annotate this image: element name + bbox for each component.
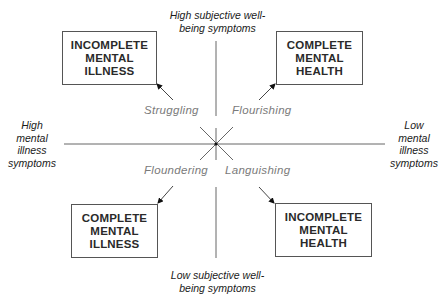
axis-label-left-line1: High: [21, 119, 43, 131]
box-incomplete-mental-illness: INCOMPLETE MENTAL ILLNESS: [62, 31, 157, 85]
axis-label-right-line4: symptoms: [390, 157, 438, 169]
box-text-line: MENTAL: [285, 224, 362, 237]
box-incomplete-mental-health: INCOMPLETE MENTAL HEALTH: [275, 203, 372, 257]
box-text-line: COMPLETE: [82, 212, 148, 225]
axis-label-right-line2: mental: [398, 132, 430, 144]
axis-label-right-line1: Low: [404, 119, 423, 131]
box-text-line: INCOMPLETE: [285, 211, 362, 224]
axis-label-top: High subjective well- being symptoms: [150, 9, 285, 34]
axis-label-bottom-line1: Low subjective well-: [171, 269, 264, 281]
axis-label-right-line3: illness: [399, 144, 428, 156]
axis-label-top-line2: being symptoms: [179, 22, 255, 34]
origin-dot: [214, 142, 217, 145]
box-text-line: HEALTH: [285, 237, 362, 250]
axis-label-left-line4: symptoms: [8, 157, 56, 169]
box-text-line: HEALTH: [287, 65, 353, 78]
box-complete-mental-illness: COMPLETE MENTAL ILLNESS: [71, 204, 158, 258]
axis-label-left-line2: mental: [16, 132, 48, 144]
box-text-line: INCOMPLETE: [71, 39, 148, 52]
arrow-flourishing: [259, 84, 275, 100]
box-text-line: MENTAL: [82, 225, 148, 238]
quadrant-label-flourishing: Flourishing: [232, 104, 292, 116]
box-text-line: ILLNESS: [71, 65, 148, 78]
arrow-struggling: [157, 84, 173, 100]
axis-label-right: Low mental illness symptoms: [386, 119, 442, 169]
box-text-line: COMPLETE: [287, 39, 353, 52]
axis-label-bottom-line2: being symptoms: [179, 282, 255, 294]
box-text-line: MENTAL: [287, 52, 353, 65]
axis-label-left: High mental illness symptoms: [4, 119, 60, 169]
quadrant-label-languishing: Languishing: [225, 164, 290, 176]
axis-label-left-line3: illness: [17, 144, 46, 156]
box-text-line: ILLNESS: [82, 238, 148, 251]
axis-label-bottom: Low subjective well- being symptoms: [150, 269, 285, 294]
box-text-line: MENTAL: [71, 52, 148, 65]
axis-label-top-line1: High subjective well-: [170, 9, 266, 21]
arrow-floundering: [158, 186, 173, 203]
quadrant-label-floundering: Floundering: [144, 164, 208, 176]
arrow-languishing: [259, 187, 274, 203]
box-complete-mental-health: COMPLETE MENTAL HEALTH: [276, 31, 363, 85]
quadrant-label-struggling: Struggling: [144, 104, 199, 116]
